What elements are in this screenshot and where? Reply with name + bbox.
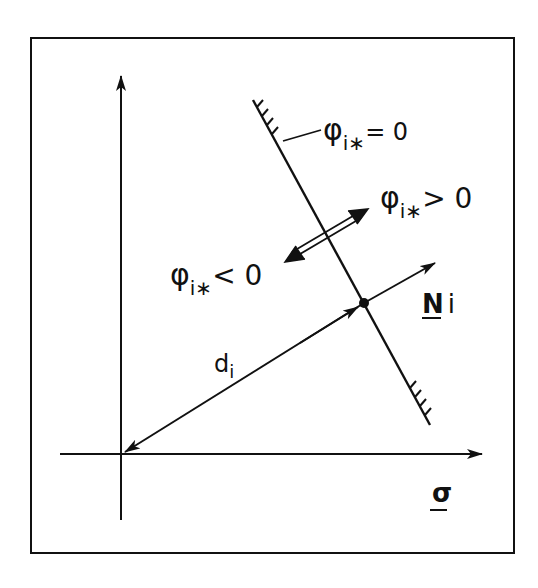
label-surface: φi∗= 0 — [323, 112, 408, 155]
yield-surface-line — [253, 100, 430, 425]
label-normal: Ni — [422, 289, 455, 319]
yield-surface-diagram: φi∗= 0 φi∗> 0 φi∗< 0 Ni di σ — [0, 0, 538, 588]
label-outside: φi∗> 0 — [380, 180, 472, 223]
distance-vector-head-upper — [300, 307, 358, 343]
label-inside: φi∗< 0 — [170, 257, 262, 300]
label-sigma: σ — [432, 478, 452, 508]
label-distance: di — [214, 350, 234, 382]
intersection-point — [359, 298, 369, 308]
surface-label-leader — [283, 130, 321, 141]
